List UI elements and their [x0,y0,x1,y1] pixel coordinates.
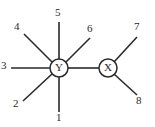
terminal-label-6: 6 [87,23,93,34]
terminal-label-3: 3 [1,60,7,71]
diagram-svg: YX [0,0,155,127]
diagram-canvas: YX 12345678 [0,0,155,127]
terminal-label-8: 8 [136,95,142,106]
edge-line-7 [114,37,137,62]
terminal-label-5: 5 [55,7,61,18]
edge-line-6 [66,38,90,62]
edge-line-group [11,22,137,112]
edge-line-4 [24,34,52,62]
terminal-label-4: 4 [14,21,20,32]
terminal-label-2: 2 [13,98,19,109]
node-label-Y: Y [55,61,63,73]
edge-line-2 [23,74,52,101]
edge-line-8 [114,74,137,95]
terminal-label-7: 7 [134,21,140,32]
node-label-X: X [104,61,112,73]
terminal-label-1: 1 [56,112,62,123]
